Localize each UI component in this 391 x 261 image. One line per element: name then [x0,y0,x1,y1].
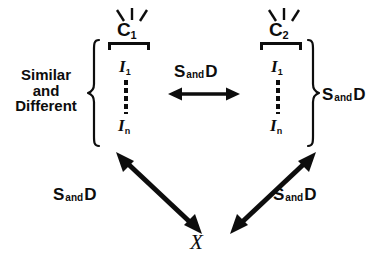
bidirectional-arrow-diagonal-left [110,148,210,238]
left-caption: Similar and Different [8,67,84,114]
left-caption-line-2: and [8,83,84,99]
relation-conjunction: and [333,92,353,103]
concept-label-c1: C1 [117,20,136,42]
concept-letter: C [269,19,282,40]
relation-prefix: S [53,185,64,204]
instance-label-right-i1: I1 [271,58,283,78]
relation-conjunction: and [64,192,84,203]
instance-subscript: 1 [278,67,283,77]
relation-label-right: SandD [322,86,365,103]
bidirectional-arrow-horizontal [168,84,240,104]
relation-label-center: SandD [174,63,217,80]
instance-subscript: n [277,126,283,136]
instance-continuation-dashes-right [276,80,280,114]
left-caption-line-1: Similar [8,67,84,83]
relation-suffix: D [205,62,217,81]
relation-suffix: D [353,85,365,104]
concept-label-c2: C2 [269,20,288,42]
left-curly-brace [86,38,102,148]
relation-label-lower-left: SandD [53,186,96,203]
relation-conjunction: and [185,69,205,80]
instance-letter: I [271,57,278,76]
instance-letter: I [270,116,277,135]
group-bracket-right [260,42,302,50]
relation-prefix: S [174,62,185,81]
instance-label-left-i1: I1 [119,58,131,78]
instance-continuation-dashes-left [124,80,128,114]
instance-subscript: 1 [126,67,131,77]
relation-prefix: S [322,85,333,104]
instance-letter: I [119,57,126,76]
relation-suffix: D [304,185,316,204]
concept-subscript: 2 [282,29,288,41]
relation-suffix: D [84,185,96,204]
relation-label-lower-right: SandD [273,186,316,203]
concept-letter: C [117,19,130,40]
instance-label-right-in: In [270,117,282,137]
concept-subscript: 1 [130,29,136,41]
right-curly-brace [305,38,321,148]
instance-subscript: n [125,126,131,136]
instance-letter: I [118,116,125,135]
relation-conjunction: and [284,192,304,203]
diagram-canvas: C1 I1 In C2 I1 In [0,0,391,261]
instance-label-left-in: In [118,117,130,137]
target-node-x: X [190,232,203,253]
relation-prefix: S [273,185,284,204]
group-bracket-left [108,42,150,50]
left-caption-line-3: Different [8,98,84,114]
